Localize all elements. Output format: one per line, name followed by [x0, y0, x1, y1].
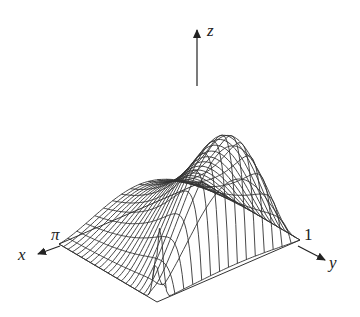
x-tick-pi: π [51, 226, 60, 243]
z-axis-label: z [207, 22, 214, 39]
y-axis-label: y [329, 254, 337, 271]
y-axis [298, 246, 325, 260]
surface-mesh [59, 135, 300, 295]
surface-plot [0, 0, 360, 317]
x-axis [38, 246, 60, 254]
y-tick-one: 1 [304, 226, 313, 243]
x-axis-label: x [18, 246, 26, 263]
